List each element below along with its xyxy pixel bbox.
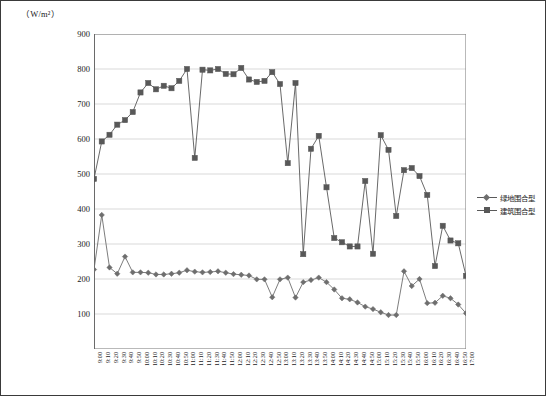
x-axis-tick-label: 16:30 <box>445 352 452 366</box>
x-axis-tick-label: 10:40 <box>174 352 181 366</box>
y-axis-unit-label: （W/m²） <box>21 7 60 19</box>
x-axis-tick-label: 15:20 <box>391 352 398 366</box>
x-axis-tick-label: 16:20 <box>437 352 444 366</box>
x-axis-tick-label: 12:00 <box>236 352 243 366</box>
x-axis-tick-label: 14:20 <box>344 352 351 366</box>
y-axis-tick-label: 200 <box>77 274 90 284</box>
x-axis-tick-label: 9:40 <box>127 352 134 363</box>
x-axis-tick-label: 11:40 <box>220 352 227 366</box>
legend-label-building: 建筑围合型 <box>500 205 535 216</box>
y-axis-tick-label: 900 <box>77 29 90 39</box>
x-axis-tick-label: 10:20 <box>158 352 165 366</box>
y-axis-tick-label: 400 <box>77 204 90 214</box>
x-axis-tick-label: 13:20 <box>298 352 305 366</box>
x-axis-tick-label: 12:10 <box>244 352 251 366</box>
chart-legend: 绿地围合型 建筑围合型 <box>477 191 535 217</box>
x-axis-tick-label: 12:50 <box>275 352 282 366</box>
x-axis-tick-label: 12:40 <box>267 352 274 366</box>
x-axis-tick-label: 10:00 <box>143 352 150 366</box>
x-axis-tick-label: 9:10 <box>104 352 111 363</box>
x-axis-tick-label: 14:40 <box>360 352 367 366</box>
x-axis-tick-label: 12:30 <box>259 352 266 366</box>
x-axis-tick-label: 16:50 <box>461 352 468 366</box>
x-axis-tick-label: 11:10 <box>197 352 204 366</box>
x-axis-tick-label: 15:40 <box>406 352 413 366</box>
x-axis-tick-label: 14:10 <box>337 352 344 366</box>
x-axis-tick-label: 11:50 <box>228 352 235 366</box>
x-axis-tick-label: 10:30 <box>166 352 173 366</box>
y-axis-tick-label: 800 <box>77 64 90 74</box>
legend-item-building[interactable]: 建筑围合型 <box>477 204 535 217</box>
x-axis-tick-label: 15:50 <box>414 352 421 366</box>
y-axis-tick-label: 700 <box>77 99 90 109</box>
x-axis-tick-label: 9:30 <box>120 352 127 363</box>
x-axis-tick-label: 9:50 <box>135 352 142 363</box>
square-marker-icon <box>477 205 497 216</box>
x-axis-tick-label: 16:10 <box>430 352 437 366</box>
x-axis-tick-label: 9:20 <box>112 352 119 363</box>
plot-area: 100200300400500600700800900 9:009:109:20… <box>94 34 466 349</box>
x-axis-tick-label: 9:00 <box>96 352 103 363</box>
x-axis-tick-label: 12:20 <box>251 352 258 366</box>
x-axis-tick-label: 17:00 <box>468 352 475 366</box>
x-axis-tick-label: 13:00 <box>282 352 289 366</box>
y-axis-tick-label: 500 <box>77 169 90 179</box>
y-axis-tick-label: 600 <box>77 134 90 144</box>
x-axis-tick-label: 10:50 <box>182 352 189 366</box>
y-axis-tick-label: 100 <box>77 309 90 319</box>
y-axis-tick-label: 300 <box>77 239 90 249</box>
x-axis-tick-label: 15:30 <box>399 352 406 366</box>
x-axis-tick-label: 13:50 <box>321 352 328 366</box>
x-axis-tick-label: 15:10 <box>383 352 390 366</box>
x-axis-tick-label: 10:10 <box>151 352 158 366</box>
legend-item-green[interactable]: 绿地围合型 <box>477 191 535 204</box>
x-axis-tick-label: 15:00 <box>375 352 382 366</box>
legend-label-green: 绿地围合型 <box>500 192 535 203</box>
x-axis-tick-label: 16:00 <box>422 352 429 366</box>
x-axis-tick-label: 14:50 <box>368 352 375 366</box>
chart-figure: （W/m²） 100200300400500600700800900 9:009… <box>0 0 546 396</box>
x-axis-tick-label: 14:30 <box>352 352 359 366</box>
x-axis-tick-label: 11:00 <box>189 352 196 366</box>
diamond-marker-icon <box>477 192 497 203</box>
x-axis-tick-label: 13:30 <box>306 352 313 366</box>
x-axis-tick-label: 13:40 <box>313 352 320 366</box>
chart-canvas <box>94 34 466 349</box>
x-axis-tick-label: 11:30 <box>213 352 220 366</box>
x-axis-tick-label: 16:40 <box>453 352 460 366</box>
x-axis-tick-label: 14:00 <box>329 352 336 366</box>
x-axis-tick-label: 11:20 <box>205 352 212 366</box>
x-axis-tick-label: 13:10 <box>290 352 297 366</box>
